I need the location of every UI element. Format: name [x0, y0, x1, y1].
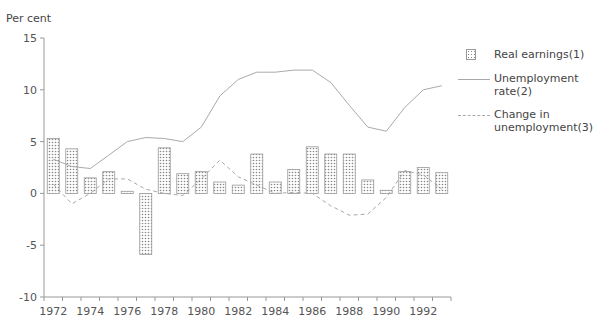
x-tick-label: 1984 [261, 305, 289, 318]
legend-label: Change in unemployment(3) [494, 108, 594, 134]
legend-label: Real earnings(1) [494, 48, 584, 61]
y-tick-label: -10 [19, 291, 37, 304]
bar [140, 193, 152, 254]
solid-line-icon [452, 72, 494, 86]
x-tick-label: 1988 [335, 305, 363, 318]
x-tick-label: 1976 [113, 305, 141, 318]
dashed-line-icon [452, 108, 494, 122]
bar [47, 138, 59, 193]
bar [66, 149, 78, 194]
y-tick-label: 15 [23, 32, 37, 45]
bar [158, 148, 170, 194]
bar [177, 174, 189, 194]
x-tick-label: 1990 [372, 305, 400, 318]
bar [399, 172, 411, 194]
legend: Real earnings(1) Unemployment rate(2) Ch… [452, 48, 614, 140]
x-axis: 1972197419761978198019821984198619881990… [39, 297, 451, 318]
y-tick-label: 10 [23, 84, 37, 97]
y-tick-label: 0 [30, 187, 37, 200]
legend-item-real-earnings: Real earnings(1) [452, 48, 614, 62]
x-tick-label: 1978 [150, 305, 178, 318]
bar [362, 180, 374, 193]
bar [306, 147, 318, 194]
bar [232, 185, 244, 193]
bar [121, 191, 133, 193]
bar [84, 178, 96, 194]
unemployment-rate-line [53, 70, 442, 168]
x-tick-label: 1980 [187, 305, 215, 318]
bar [436, 173, 448, 194]
bar [288, 170, 300, 194]
y-tick-label: -5 [26, 239, 37, 252]
bar [380, 190, 392, 193]
legend-label: Unemployment rate(2) [494, 72, 614, 98]
bar [251, 154, 263, 193]
x-tick-label: 1972 [39, 305, 67, 318]
bar [214, 182, 226, 193]
legend-item-change-in-unemployment: Change in unemployment(3) [452, 108, 614, 134]
stippled-bar-icon [452, 48, 494, 62]
legend-item-unemployment-rate: Unemployment rate(2) [452, 72, 614, 98]
bar [325, 154, 337, 193]
x-tick-label: 1974 [76, 305, 104, 318]
x-tick-label: 1992 [409, 305, 437, 318]
bar [343, 154, 355, 193]
y-axis: 151050-5-10 [19, 32, 44, 304]
x-tick-label: 1986 [298, 305, 326, 318]
bar [417, 168, 429, 194]
x-tick-label: 1982 [224, 305, 252, 318]
y-tick-label: 5 [30, 136, 37, 149]
y-axis-label: Per cent [6, 12, 52, 25]
